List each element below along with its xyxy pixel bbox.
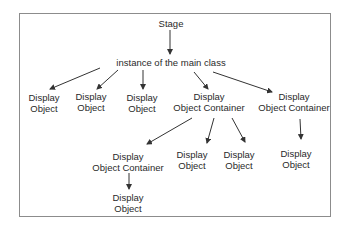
node-label: Stage	[159, 18, 184, 29]
node-label: Display	[176, 149, 207, 160]
node-label: Display	[75, 91, 106, 102]
node-label: Display	[112, 192, 143, 203]
node-label: Object Container	[258, 102, 329, 113]
arrow-doc1-to-doc3	[147, 118, 192, 144]
arrow-main-to-do1	[50, 68, 100, 89]
arrow-doc1-to-do4	[207, 118, 214, 143]
arrow-doc1-to-do5	[232, 118, 245, 142]
arrow-doc2-to-do6	[300, 119, 301, 139]
node-label: Object Container	[92, 162, 163, 173]
node-label: Object	[280, 159, 311, 170]
node-label: Object	[176, 160, 207, 171]
node-label: Object	[223, 160, 254, 171]
node-do7: DisplayObject	[112, 192, 143, 214]
node-label: Display	[28, 92, 59, 103]
node-do2: DisplayObject	[75, 91, 106, 113]
node-do6: DisplayObject	[280, 148, 311, 170]
node-doc3: DisplayObject Container	[92, 151, 163, 173]
node-label: Object	[75, 102, 106, 113]
edges-layer	[0, 0, 346, 229]
node-label: Object	[126, 103, 157, 114]
node-label: Display	[173, 91, 244, 102]
node-label: Display	[280, 148, 311, 159]
node-label: instance of the main class	[116, 57, 225, 68]
arrow-main-to-doc2	[213, 72, 272, 92]
node-do1: DisplayObject	[28, 92, 59, 114]
arrow-main-to-doc1	[194, 72, 208, 89]
node-label: Object	[28, 103, 59, 114]
node-label: Display	[126, 92, 157, 103]
node-doc1: DisplayObject Container	[173, 91, 244, 113]
node-label: Display	[223, 149, 254, 160]
node-do4: DisplayObject	[176, 149, 207, 171]
node-label: Display	[258, 91, 329, 102]
node-label: Object Container	[173, 102, 244, 113]
node-label: Display	[92, 151, 163, 162]
node-doc2: DisplayObject Container	[258, 91, 329, 113]
arrow-main-to-do2	[97, 70, 118, 89]
node-do5: DisplayObject	[223, 149, 254, 171]
node-do3: DisplayObject	[126, 92, 157, 114]
node-stage: Stage	[159, 18, 184, 29]
node-label: Object	[112, 203, 143, 214]
node-main: instance of the main class	[116, 57, 225, 68]
